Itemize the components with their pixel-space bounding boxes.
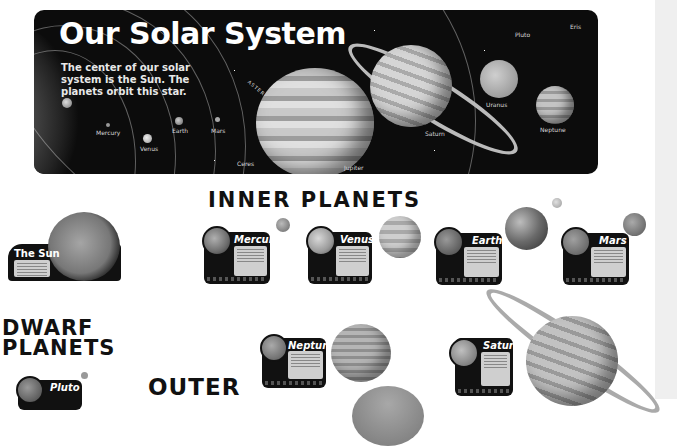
mercury-sticker [276,218,290,232]
mars-planet [215,117,220,122]
earth-card-title: Earth [472,235,502,246]
pluto-card: Pluto [18,380,82,410]
uranus-planet [480,60,518,98]
label-pluto: Pluto [515,31,530,38]
solar-system-banner: Our Solar System The center of our solar… [34,10,598,174]
heading-outer: OUTER [148,374,240,400]
earth-card-image [434,227,464,257]
label-mercury: Mercury [96,129,120,136]
label-venus: Venus [140,145,158,152]
label-neptune: Neptune [540,126,566,133]
sun-card: The Sun [8,212,121,281]
neptune-card-title: Neptune [288,340,336,351]
saturn-planet [370,45,452,127]
earth-card: Earth [436,233,502,285]
heading-dwarf: DWARF [2,318,93,338]
sun-card-title: The Sun [14,248,60,259]
label-uranus: Uranus [486,101,507,108]
sun-small-icon [62,98,72,108]
banner-subtitle: The center of our solar system is the Su… [61,62,221,98]
label-earth: Earth [172,127,188,134]
earth-sticker [505,207,548,250]
pluto-sticker [81,372,88,379]
venus-planet [143,134,152,143]
moon-sticker [552,198,562,208]
label-jupiter: Jupiter [344,164,364,171]
neptune-sticker [331,324,391,382]
venus-sticker [379,216,421,258]
neptune-card-image [260,334,288,362]
banner-title: Our Solar System [59,16,346,51]
mercury-planet [106,123,110,127]
venus-card-image [306,226,336,256]
earth-planet [175,117,183,125]
pluto-card-image [16,376,44,404]
label-eris: Eris [570,23,581,30]
label-mars: Mars [211,127,225,134]
heading-planets: PLANETS [2,338,115,358]
venus-card-title: Venus [340,234,374,245]
neptune-card: Neptune [262,338,326,388]
saturn-card-title: Saturn [483,340,521,351]
neptune-planet [536,86,574,124]
uranus-sticker [352,386,424,446]
mars-card-title: Mars [599,235,627,246]
mars-sticker [623,213,646,236]
side-strip [655,0,677,399]
label-ceres: Ceres [237,160,254,167]
venus-card: Venus [308,232,372,284]
mercury-card: Mercury [204,232,270,284]
label-saturn: Saturn [425,130,445,137]
saturn-sticker [526,316,618,406]
saturn-card: Saturn [455,338,513,396]
jupiter-planet [256,68,374,174]
mercury-card-title: Mercury [234,234,280,245]
pluto-card-title: Pluto [50,382,80,393]
saturn-card-image [449,338,479,368]
mercury-card-image [202,226,232,256]
heading-inner-planets: INNER PLANETS [208,188,421,212]
sun-card-text [14,260,50,277]
mars-card-image [561,227,591,257]
mars-card: Mars [563,233,629,285]
